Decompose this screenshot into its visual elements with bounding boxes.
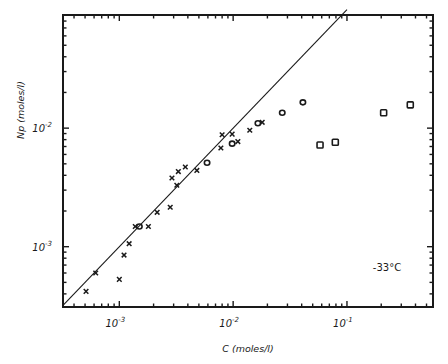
cross-marker [127,241,132,246]
circle-marker [204,160,209,165]
cross-marker [170,176,175,181]
x-tick-label: 10-2 [219,316,239,329]
data-points [84,100,414,294]
cross-marker [168,205,173,210]
x-axis-title: C (moles/l) [222,343,273,354]
scatter-chart: 10-310-210-110-310-2 C (moles/l) Np (mol… [0,0,448,364]
cross-marker [183,165,188,170]
cross-marker [220,132,225,137]
x-tick-label: 10-1 [333,316,353,329]
y-tick-label: 10-3 [32,240,52,253]
circle-marker [300,100,305,105]
y-axis-title: Np (moles/l) [15,81,26,139]
circle-marker [229,141,234,146]
cross-marker [247,128,252,133]
cross-marker [219,146,224,151]
cross-marker [155,210,160,215]
square-marker [381,110,387,116]
cross-marker [122,253,127,258]
x-tick-label: 10-3 [105,316,125,329]
square-marker [317,142,323,148]
y-tick-label: 10-2 [32,121,52,134]
cross-marker [230,132,235,137]
circle-marker [280,110,285,115]
cross-marker [176,169,181,174]
temperature-annotation: -33°C [373,262,401,273]
reference-line [63,10,347,306]
square-marker [332,139,338,145]
circle-marker [255,121,260,126]
cross-marker [146,224,151,229]
square-marker [407,102,413,108]
tick-labels: 10-310-210-110-310-2 [32,121,353,329]
cross-marker [195,168,200,173]
cross-marker [117,277,122,282]
cross-marker [236,139,241,144]
cross-marker [84,289,89,294]
